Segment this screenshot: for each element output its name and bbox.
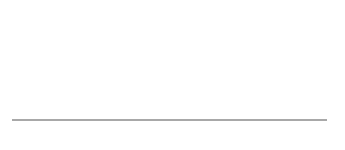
plot-area: 37% African American 45% Asian 37% Hispa… bbox=[0, 0, 345, 150]
bar-chart: 37% African American 45% Asian 37% Hispa… bbox=[0, 0, 345, 150]
x-axis-baseline bbox=[12, 119, 327, 121]
